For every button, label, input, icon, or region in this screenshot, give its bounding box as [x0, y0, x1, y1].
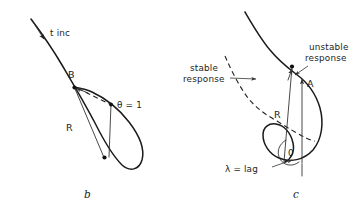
- panel-b-point-origin-marker: [102, 155, 106, 159]
- panel-c-label-theta: 0: [288, 148, 294, 158]
- panel-c-stable-curve: [225, 56, 315, 141]
- panel-b-trajectory-curve: [31, 19, 143, 169]
- panel-c-group: stable response unstable response A R 0 …: [183, 12, 349, 200]
- panel-c-label-r: R: [274, 109, 281, 120]
- panel-c-caption: c: [293, 188, 299, 200]
- panel-b-label-theta: θ = 1: [117, 100, 142, 110]
- panel-b-caption: b: [84, 188, 91, 200]
- panel-b-group: t inc B θ = 1 R b: [31, 19, 143, 200]
- figure-container: t inc B θ = 1 R b: [0, 0, 363, 208]
- panel-b-point-theta-marker: [109, 103, 113, 107]
- panel-b-label-b: B: [68, 69, 75, 80]
- unstable-response-leader: [295, 66, 308, 75]
- t-increasing-arrow: [33, 22, 44, 39]
- t-increasing-label: t inc: [50, 28, 70, 38]
- stable-response-leader: [230, 78, 256, 79]
- panel-c-label-a: A: [307, 78, 314, 89]
- panel-c-top-marker: [290, 64, 294, 68]
- panel-b-point-b-marker: [72, 85, 76, 89]
- panel-b-label-r: R: [66, 122, 73, 133]
- unstable-response-label-line1: unstable: [309, 42, 349, 52]
- panel-c-label-lag: λ = lag: [225, 164, 258, 174]
- panel-b-vector-r: [75, 88, 105, 158]
- stable-response-label-line2: response: [183, 74, 225, 84]
- stable-response-label-line1: stable: [190, 63, 218, 73]
- unstable-response-label-line2: response: [305, 53, 347, 63]
- figure-canvas: t inc B θ = 1 R b: [0, 0, 363, 208]
